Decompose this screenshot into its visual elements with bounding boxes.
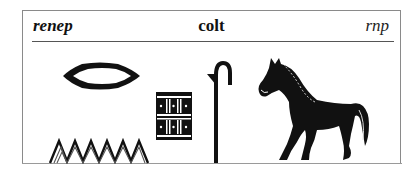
mouth-glyph-icon [60, 60, 144, 92]
staff-glyph-icon [206, 61, 232, 164]
transliteration-short: rnp [365, 16, 389, 36]
stool-glyph-icon [156, 92, 192, 140]
header-rule [32, 41, 394, 42]
horse-glyph-icon [255, 54, 375, 166]
gloss-title: colt [0, 16, 419, 36]
water-glyph-icon [48, 137, 152, 164]
gloss-text: colt [198, 16, 224, 35]
